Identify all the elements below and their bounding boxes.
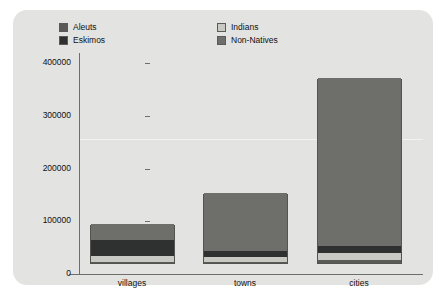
bar-segment-towns-aleuts xyxy=(204,262,287,263)
bar-segment-cities-aleuts xyxy=(318,260,401,263)
bar-towns[interactable] xyxy=(203,194,288,264)
y-tick-mark xyxy=(145,116,150,117)
x-axis-label-villages: villages xyxy=(92,278,172,288)
bar-segment-villages-non-natives xyxy=(91,224,174,240)
x-axis-label-towns: towns xyxy=(205,278,285,288)
bar-segment-towns-non-natives xyxy=(204,193,287,251)
y-tick-mark xyxy=(145,169,150,170)
y-tick-label: 200000 xyxy=(43,163,71,173)
plot-area: 0100000200000300000400000 villagestownsc… xyxy=(13,10,433,285)
y-tick-mark xyxy=(145,274,150,275)
bar-segment-villages-eskimos xyxy=(91,240,174,257)
bar-villages[interactable] xyxy=(90,225,175,264)
y-tick-label: 400000 xyxy=(43,57,71,67)
y-tick-label: 300000 xyxy=(43,110,71,120)
bar-segment-cities-non-natives xyxy=(318,78,401,246)
bar-segment-villages-aleuts xyxy=(91,262,174,263)
y-tick-mark xyxy=(145,63,150,64)
y-tick-label: 0 xyxy=(66,268,71,278)
bar-segment-villages-indians xyxy=(91,256,174,261)
bar-segment-cities-eskimos xyxy=(318,246,401,253)
y-tick-label: 100000 xyxy=(43,215,71,225)
bar-cities[interactable] xyxy=(317,79,402,264)
x-axis-label-cities: cities xyxy=(319,278,399,288)
bar-segment-towns-indians xyxy=(204,257,287,262)
bar-segment-towns-eskimos xyxy=(204,251,287,257)
x-axis-line xyxy=(69,274,423,275)
y-tick-mark xyxy=(145,221,150,222)
bar-segment-cities-indians xyxy=(318,253,401,260)
y-axis-line xyxy=(79,53,80,274)
chart-panel: Aleuts Eskimos Indians Non-Natives 01000… xyxy=(13,10,433,285)
